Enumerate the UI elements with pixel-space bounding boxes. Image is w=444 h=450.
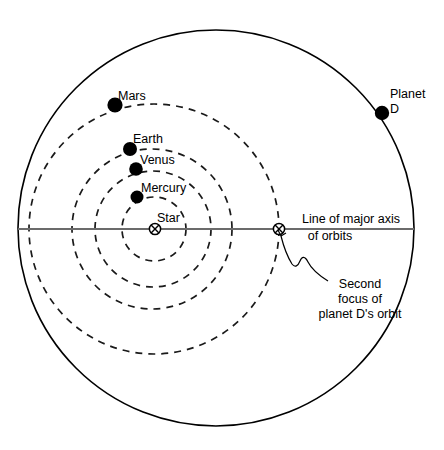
venus-label: Venus [140, 153, 175, 167]
planet-d-dot [375, 106, 389, 120]
star-marker [149, 223, 160, 234]
second-focus-label-line3: planet D's orbit [319, 307, 403, 321]
star-label: Star [157, 211, 180, 225]
orbit-diagram-canvas: Mars Earth Venus Mercury Star Planet D L… [0, 0, 444, 450]
mercury-label: Mercury [141, 181, 187, 195]
major-axis-label-line1: Line of major axis [302, 212, 400, 226]
major-axis-label-line2: of orbits [308, 229, 352, 243]
planet-d-label-line2: D [390, 102, 399, 116]
second-focus-label-line2: focus of [338, 292, 382, 306]
second-focus-label-line1: Second [339, 277, 381, 291]
planet-d-label-line1: Planet [390, 87, 426, 101]
mars-label: Mars [118, 89, 146, 103]
earth-label: Earth [133, 132, 163, 146]
orbit-diagram: Mars Earth Venus Mercury Star Planet D L… [0, 0, 444, 450]
